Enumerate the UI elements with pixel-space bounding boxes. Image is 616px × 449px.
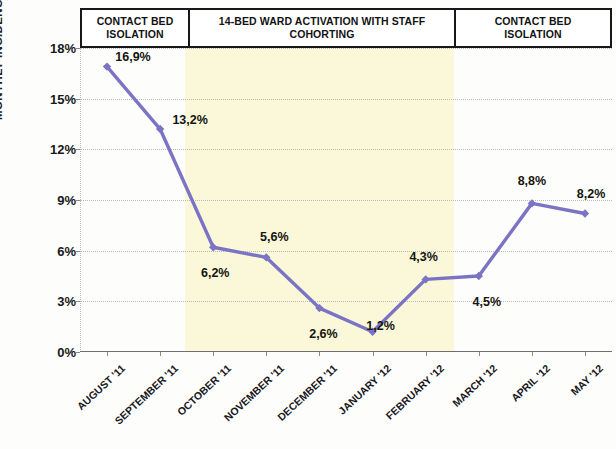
x-category-label: MARCH '12 <box>450 362 499 409</box>
y-axis-tick-labels: 18%15%12%9%6%3%0% <box>30 48 76 352</box>
data-point-label: 6,2% <box>201 266 230 280</box>
phase-label-line2: COHORTING <box>289 28 354 40</box>
intervention-phase-header: CONTACT BED ISOLATION 14-BED WARD ACTIVA… <box>80 8 612 48</box>
x-category-label: MAY '12 <box>568 362 605 398</box>
data-point-label: 13,2% <box>172 113 207 127</box>
data-point-label: 1,2% <box>366 319 395 333</box>
phase-box-contact-bed-isolation-late: CONTACT BED ISOLATION <box>454 10 610 46</box>
phase-label-line2: ISOLATION <box>106 28 163 40</box>
x-category-label: OCTOBER '11 <box>175 362 234 418</box>
y-tick-label: 0% <box>34 345 76 360</box>
phase-label-line1: CONTACT BED <box>495 15 572 27</box>
phase-label-line2: ISOLATION <box>504 28 561 40</box>
data-point-label: 16,9% <box>115 50 150 64</box>
y-axis-title: MONTHLY INCIDENCE <box>0 0 4 120</box>
x-category-label: JANUARY '12 <box>335 362 392 417</box>
incidence-line-chart: CONTACT BED ISOLATION 14-BED WARD ACTIVA… <box>0 0 616 449</box>
phase-box-ward-activation-cohorting: 14-BED WARD ACTIVATION WITH STAFF COHORT… <box>188 10 454 46</box>
phase-label-line1: CONTACT BED <box>97 15 174 27</box>
data-point-label: 2,6% <box>309 327 338 341</box>
x-category-label: AUGUST '11 <box>74 362 127 412</box>
plot-area: 16,9%13,2%6,2%5,6%2,6%1,2%4,3%4,5%8,8%8,… <box>80 48 612 352</box>
data-point-label: 5,6% <box>260 230 289 244</box>
phase-label-line1: 14-BED WARD ACTIVATION WITH STAFF <box>219 15 425 27</box>
y-tick-label: 15% <box>34 91 76 106</box>
x-axis-category-labels: AUGUST '11SEPTEMBER '11OCTOBER '11NOVEMB… <box>80 352 612 449</box>
y-tick-label: 3% <box>34 294 76 309</box>
data-point-label: 8,2% <box>577 187 606 201</box>
incidence-series <box>80 48 612 352</box>
y-tick-label: 12% <box>34 142 76 157</box>
data-point-label: 8,8% <box>518 174 547 188</box>
data-point-label: 4,5% <box>473 295 502 309</box>
series-line <box>107 67 585 332</box>
y-tick-label: 6% <box>34 243 76 258</box>
x-category-label: APRIL '12 <box>508 362 552 404</box>
y-tick-label: 18% <box>34 41 76 56</box>
phase-box-contact-bed-isolation-early: CONTACT BED ISOLATION <box>82 10 188 46</box>
y-tick-label: 9% <box>34 193 76 208</box>
data-point-marker <box>581 209 589 217</box>
data-point-label: 4,3% <box>409 250 438 264</box>
